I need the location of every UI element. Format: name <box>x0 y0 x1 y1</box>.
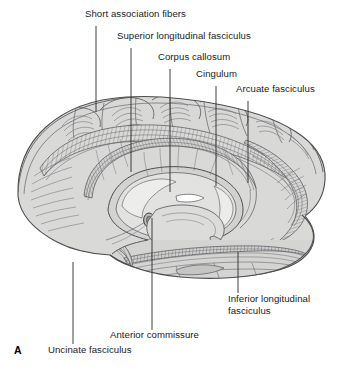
label-uncinate-fasciculus: Uncinate fasciculus <box>48 344 132 356</box>
label-superior-longitudinal-fasciculus: Superior longitudinal fasciculus <box>117 30 251 42</box>
label-cingulum: Cingulum <box>196 68 237 80</box>
label-short-association-fibers: Short association fibers <box>85 8 186 20</box>
label-anterior-commissure: Anterior commissure <box>110 329 199 341</box>
brain-fiber-tract-figure: Short association fibers Superior longit… <box>0 0 338 375</box>
label-corpus-callosum: Corpus callosum <box>158 51 230 63</box>
label-inferior-longitudinal-fasciculus: Inferior longitudinal fasciculus <box>228 293 332 316</box>
label-arcuate-fasciculus: Arcuate fasciculus <box>236 83 315 95</box>
panel-letter: A <box>14 344 22 356</box>
